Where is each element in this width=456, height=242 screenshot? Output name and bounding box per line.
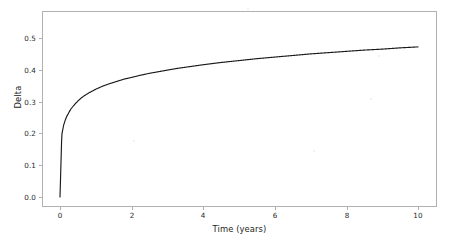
figure-canvas: 0.5 0.4 0.3 0.2 0.1 0.0 0 2 4 6 8 10 Tim…	[0, 0, 456, 242]
delta-curve	[60, 47, 418, 197]
plot-area	[0, 0, 456, 242]
